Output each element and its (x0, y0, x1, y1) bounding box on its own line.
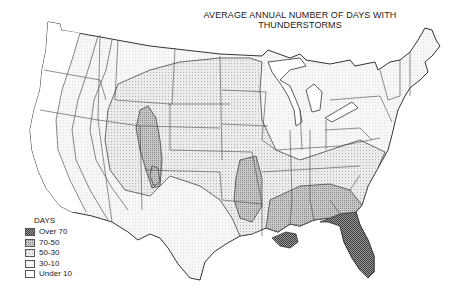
map-title: AVERAGE ANNUAL NUMBER OF DAYS WITH THUND… (200, 10, 400, 30)
swatch-50-30-icon (25, 249, 35, 257)
legend-label: 30-10 (39, 259, 59, 269)
swatch-70-50-icon (25, 239, 35, 247)
legend-label: Under 10 (39, 269, 72, 279)
legend-item-30-10: 30-10 (25, 259, 72, 270)
legend-label: 50-30 (39, 248, 59, 258)
swatch-over-70-icon (25, 228, 35, 236)
legend-item-50-30: 50-30 (25, 248, 72, 259)
legend-item-over-70: Over 70 (25, 227, 72, 238)
zone-over-70-louisiana (272, 232, 298, 248)
zone-over-70-florida (320, 212, 374, 278)
swatch-30-10-icon (25, 260, 35, 268)
legend-title: DAYS (25, 216, 72, 226)
legend: DAYS Over 70 70-50 50-30 30-10 Under 10 (25, 216, 72, 280)
legend-label: 70-50 (39, 238, 59, 248)
map-title-line1: AVERAGE ANNUAL NUMBER OF DAYS WITH (200, 10, 400, 20)
swatch-under-10-icon (25, 270, 35, 278)
legend-label: Over 70 (39, 227, 67, 237)
legend-item-under-10: Under 10 (25, 269, 72, 280)
map-title-line2: THUNDERSTORMS (200, 20, 400, 30)
legend-item-70-50: 70-50 (25, 238, 72, 249)
